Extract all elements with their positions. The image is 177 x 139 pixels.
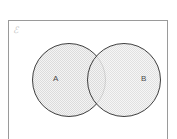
set-circle-b[interactable] bbox=[88, 44, 161, 117]
venn-diagram: ℰ A B bbox=[0, 0, 177, 139]
set-label-b: B bbox=[141, 75, 146, 83]
venn-circles-svg bbox=[0, 0, 177, 139]
set-label-a: A bbox=[53, 75, 58, 83]
